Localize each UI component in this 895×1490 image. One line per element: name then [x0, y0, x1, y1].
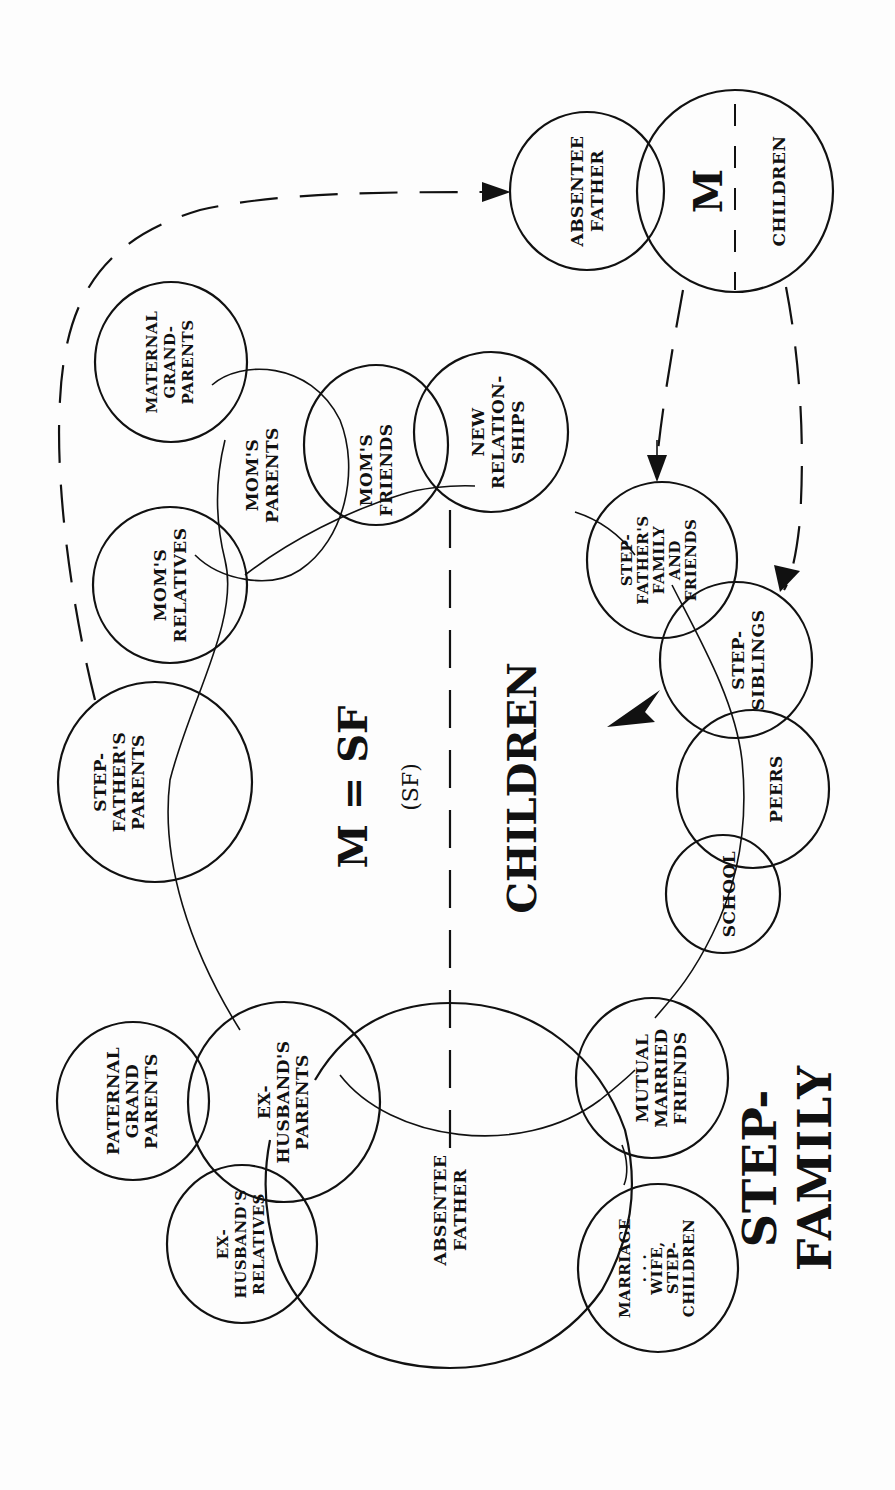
- title-line-2: FAMILY: [788, 1065, 842, 1271]
- svg-text:MOM'S: MOM'S: [242, 439, 262, 511]
- svg-text:HUSBAND'S: HUSBAND'S: [273, 1041, 293, 1164]
- svg-text:GRAND: GRAND: [122, 1064, 142, 1139]
- dashed-connection-to-step-siblings: [784, 287, 802, 590]
- svg-text:FATHER: FATHER: [450, 1169, 470, 1252]
- stepfathers-parents-circle: [58, 682, 252, 882]
- dashed-connection-to-stepfather-family: [657, 290, 683, 460]
- diagram-page: ABSENTEE FATHER M CHILDREN MATERNAL GRAN…: [0, 0, 895, 1490]
- svg-text:EX-: EX-: [214, 1229, 232, 1259]
- ex-husbands-parents-label: EX- HUSBAND'S PARENTS: [254, 1041, 312, 1164]
- svg-text:PARENTS: PARENTS: [179, 320, 197, 405]
- svg-text:ABSENTEE: ABSENTEE: [567, 136, 587, 248]
- stepfathers-family-label: STEP- FATHER'S FAMILY AND FRIENDS: [618, 515, 700, 604]
- svg-text:MOM'S: MOM'S: [356, 434, 376, 506]
- ex-husbands-relatives-label: EX- HUSBAND'S RELATIVES: [214, 1189, 268, 1298]
- pointer-arrowhead-icon: [607, 690, 660, 727]
- svg-text:CHILDREN: CHILDREN: [769, 136, 789, 247]
- svg-text:M = SF: M = SF: [329, 706, 376, 869]
- svg-text:RELATIVES: RELATIVES: [250, 1193, 268, 1295]
- original-children-label: CHILDREN: [769, 136, 789, 247]
- svg-text:FATHER'S: FATHER'S: [109, 732, 129, 833]
- svg-text:PARENTS: PARENTS: [128, 734, 148, 830]
- svg-text:RELATION-: RELATION-: [488, 375, 508, 489]
- svg-text:FRIENDS: FRIENDS: [682, 519, 700, 602]
- svg-text:NEW: NEW: [468, 407, 488, 456]
- svg-text:CHILDREN: CHILDREN: [498, 662, 545, 913]
- svg-text:MATERNAL: MATERNAL: [143, 311, 161, 413]
- svg-text:SHIPS: SHIPS: [508, 400, 528, 464]
- svg-text:PARENTS: PARENTS: [262, 427, 282, 523]
- svg-text:MOM'S: MOM'S: [150, 549, 170, 621]
- peers-label: PEERS: [766, 755, 786, 823]
- svg-text:FATHER: FATHER: [587, 150, 607, 233]
- absentee-father-label: ABSENTEE FATHER: [567, 136, 607, 248]
- moms-parents-label: MOM'S PARENTS: [242, 427, 282, 523]
- stepfamily-diagram: ABSENTEE FATHER M CHILDREN MATERNAL GRAN…: [0, 0, 895, 1490]
- svg-text:STEP-: STEP-: [733, 1089, 787, 1248]
- svg-text:FRIENDS: FRIENDS: [670, 1031, 690, 1124]
- svg-text:PEERS: PEERS: [766, 755, 786, 823]
- svg-text:ABSENTEE: ABSENTEE: [430, 1155, 450, 1267]
- couple-sub-label: (SF): [398, 763, 423, 811]
- svg-text:MARRIED: MARRIED: [651, 1028, 671, 1127]
- svg-text:PARENTS: PARENTS: [141, 1053, 161, 1149]
- center-children-label: CHILDREN: [498, 662, 545, 913]
- maternal-grandparents-label: MATERNAL GRAND- PARENTS: [143, 311, 197, 413]
- svg-text:PATERNAL: PATERNAL: [103, 1047, 123, 1155]
- svg-text:GRAND-: GRAND-: [161, 325, 179, 398]
- svg-text:SIBLINGS: SIBLINGS: [748, 610, 768, 711]
- svg-text:MUTUAL: MUTUAL: [632, 1034, 652, 1123]
- absentee-father-big-label: ABSENTEE FATHER: [430, 1155, 470, 1267]
- svg-text:M: M: [684, 169, 731, 213]
- step-siblings-label: STEP- SIBLINGS: [728, 610, 768, 711]
- moms-relatives-label: MOM'S RELATIVES: [150, 528, 190, 643]
- new-relationships-label: NEW RELATION- SHIPS: [468, 375, 528, 489]
- svg-text:(SF): (SF): [398, 763, 423, 811]
- svg-text:RELATIVES: RELATIVES: [170, 528, 190, 643]
- couple-label: M = SF: [329, 706, 376, 869]
- svg-text:PARENTS: PARENTS: [292, 1054, 312, 1150]
- mutual-married-friends-label: MUTUAL MARRIED FRIENDS: [632, 1028, 690, 1127]
- paternal-grandparents-label: PATERNAL GRAND PARENTS: [103, 1047, 161, 1155]
- arrowhead-icon: [482, 182, 511, 202]
- marriage-label: MARRIAGE . . . WIFE, STEP- CHILDREN: [616, 1218, 698, 1318]
- svg-text:FAMILY: FAMILY: [788, 1065, 842, 1271]
- svg-text:STEP-: STEP-: [90, 752, 110, 811]
- arrowhead-icon: [774, 565, 800, 592]
- stepfathers-parents-label: STEP- FATHER'S PARENTS: [90, 732, 148, 833]
- svg-text:STEP-: STEP-: [728, 630, 748, 689]
- svg-text:CHILDREN: CHILDREN: [680, 1219, 698, 1317]
- mother-label: M: [684, 169, 731, 213]
- svg-text:HUSBAND'S: HUSBAND'S: [232, 1189, 250, 1298]
- title-line-1: STEP-: [733, 1089, 787, 1248]
- arrowhead-icon: [647, 455, 667, 482]
- svg-text:EX-: EX-: [254, 1085, 274, 1119]
